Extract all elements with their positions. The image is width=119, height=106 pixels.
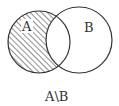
- set-b-label: B: [84, 20, 94, 35]
- set-b-circle: [46, 7, 112, 73]
- set-a-label: A: [21, 19, 32, 34]
- caption: A\B: [44, 89, 68, 104]
- venn-diagram: A B A\B: [0, 0, 119, 106]
